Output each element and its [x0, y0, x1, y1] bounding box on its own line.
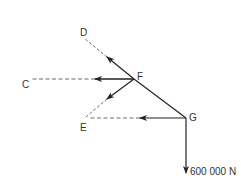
load-label: 600 000 N [190, 166, 236, 177]
label-e: E [80, 122, 87, 133]
label-f: F [137, 71, 143, 82]
label-c: C [22, 79, 29, 90]
force-diagram: D C E F G 600 000 N [0, 0, 241, 189]
member-fg [134, 79, 186, 118]
label-d: D [80, 27, 87, 38]
member-fd [84, 38, 134, 79]
label-g: G [189, 112, 197, 123]
member-fe [86, 79, 134, 117]
